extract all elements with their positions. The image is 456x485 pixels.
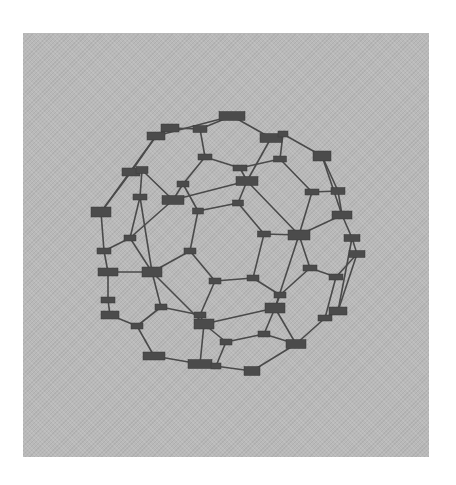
graph-edge — [238, 203, 264, 234]
graph-node — [344, 235, 360, 242]
graph-node — [329, 307, 347, 315]
graph-node — [278, 131, 288, 137]
graph-node — [220, 339, 232, 345]
graph-node — [305, 189, 319, 195]
graph-node — [161, 124, 179, 132]
graph-node — [198, 154, 212, 160]
graph-node — [136, 167, 148, 174]
graph-edge — [247, 181, 299, 235]
graph-node — [211, 363, 221, 369]
graph-edge — [200, 129, 205, 157]
graph-node — [236, 177, 258, 186]
graph-edge — [216, 342, 226, 366]
graph-node — [143, 352, 165, 360]
graph-node — [188, 360, 212, 369]
graph-node — [247, 275, 259, 281]
graph-node — [133, 194, 147, 200]
graph-node — [97, 248, 111, 254]
graph-node — [184, 248, 196, 254]
graph-node — [162, 196, 184, 205]
graph-node — [331, 188, 345, 195]
graph-node — [219, 112, 245, 121]
graph-node — [194, 312, 206, 318]
graph-node — [98, 268, 118, 276]
graph-edge — [299, 192, 312, 235]
graph-edge — [140, 197, 152, 272]
graph-node — [147, 132, 165, 140]
graph-node — [194, 319, 214, 329]
graph-node — [177, 181, 189, 187]
graph-node — [313, 151, 331, 161]
graph-node — [233, 200, 244, 206]
graph-node — [101, 297, 115, 303]
graph-edge — [200, 324, 204, 364]
graph-node — [349, 251, 365, 258]
graph-edge — [140, 170, 142, 197]
graph-node — [193, 208, 204, 214]
graph-node — [286, 340, 306, 349]
graph-edge — [130, 197, 140, 238]
graph-node — [124, 235, 136, 241]
graph-node — [258, 331, 270, 337]
graph-edge — [101, 212, 104, 251]
graph-edge — [322, 156, 342, 215]
graph-node — [155, 304, 167, 310]
graph-node — [101, 311, 119, 319]
graph-node — [274, 292, 286, 298]
graph-edge — [190, 251, 215, 281]
graph-edge — [190, 211, 198, 251]
graph-node — [332, 211, 352, 219]
buckyball-graph — [0, 0, 456, 485]
graph-edge — [137, 326, 154, 356]
graph-node — [131, 323, 143, 329]
graph-edge — [247, 138, 271, 181]
graph-edge — [280, 159, 312, 192]
graph-edge — [204, 308, 275, 324]
graph-node — [233, 165, 247, 171]
graph-node — [318, 315, 332, 321]
graph-node — [329, 274, 343, 280]
graph-edge — [253, 234, 264, 278]
graph-node — [193, 126, 207, 133]
graph-edge — [200, 281, 215, 315]
graph-node — [274, 156, 287, 162]
graph-edge — [130, 200, 173, 238]
graph-edge — [183, 157, 205, 184]
graph-edge — [198, 203, 238, 211]
graph-node — [258, 231, 271, 237]
graph-node — [288, 230, 310, 240]
graph-node — [209, 278, 221, 284]
graph-nodes — [91, 112, 365, 376]
graph-node — [265, 303, 285, 313]
graph-node — [142, 267, 162, 277]
graph-node — [303, 265, 317, 271]
graph-node — [244, 367, 260, 376]
graph-node — [91, 207, 111, 217]
